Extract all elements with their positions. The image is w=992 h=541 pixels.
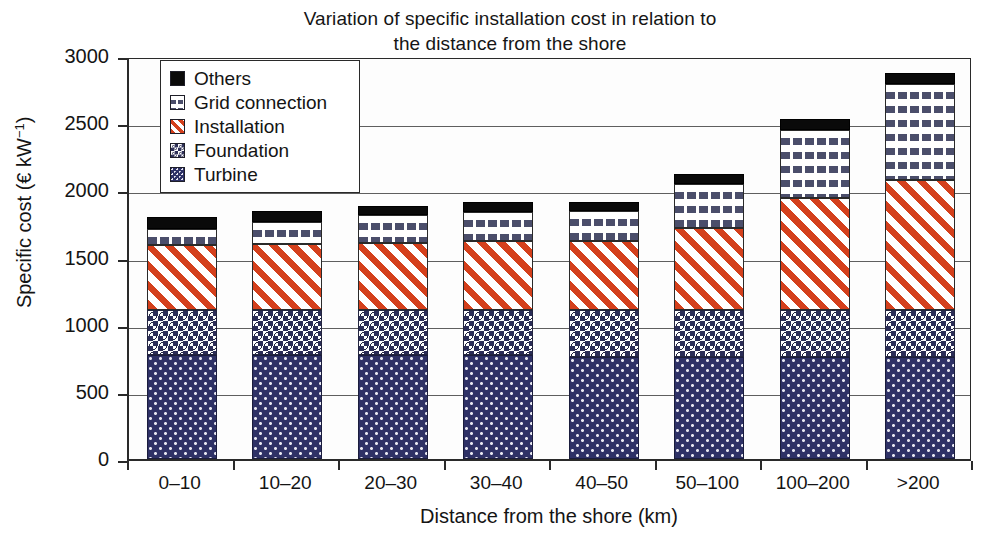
x-tick-label-4: 30–40 (444, 472, 550, 494)
foundation-swatch (170, 143, 185, 158)
y-tick-mark (118, 58, 127, 60)
y-tick-mark (118, 394, 127, 396)
bar-segment-turbine[interactable] (674, 357, 744, 459)
y-tick-mark (118, 125, 127, 127)
bar-3[interactable] (358, 56, 428, 459)
bar-8[interactable] (885, 56, 955, 459)
bar-segment-grid[interactable] (252, 222, 322, 244)
bar-segment-turbine[interactable] (780, 357, 850, 459)
bar-segment-grid[interactable] (885, 84, 955, 180)
legend-item-installation[interactable]: Installation (170, 114, 350, 138)
bar-segment-foundation[interactable] (463, 310, 533, 355)
bar-segment-turbine[interactable] (252, 355, 322, 459)
legend-label-grid: Grid connection (194, 93, 327, 112)
y-tick-mark (118, 260, 127, 262)
bar-segment-others[interactable] (674, 174, 744, 184)
x-tick-mark (127, 461, 129, 470)
bar-segment-foundation[interactable] (885, 310, 955, 357)
chart-title-line-2: the distance from the shore (130, 31, 890, 56)
bar-segment-grid[interactable] (780, 130, 850, 199)
legend-item-grid[interactable]: Grid connection (170, 90, 350, 114)
bar-segment-others[interactable] (780, 119, 850, 130)
x-tick-mark (971, 461, 973, 470)
bar-segment-foundation[interactable] (358, 310, 428, 355)
legend-label-turbine: Turbine (194, 165, 258, 184)
y-tick-label: 2000 (0, 179, 109, 202)
y-tick-label: 1500 (0, 247, 109, 270)
bar-4[interactable] (463, 56, 533, 459)
legend-label-others: Others (194, 69, 251, 88)
x-tick-mark (760, 461, 762, 470)
chart-title: Variation of specific installation cost … (130, 6, 890, 56)
x-tick-label-8: >200 (866, 472, 972, 494)
chart-title-line-1: Variation of specific installation cost … (304, 8, 717, 29)
x-tick-mark (655, 461, 657, 470)
bar-segment-others[interactable] (358, 206, 428, 215)
y-tick-mark (118, 192, 127, 194)
bar-6[interactable] (674, 56, 744, 459)
bar-segment-grid[interactable] (674, 184, 744, 228)
others-swatch (170, 71, 185, 86)
legend-item-foundation[interactable]: Foundation (170, 138, 350, 162)
x-axis-label: Distance from the shore (km) (127, 505, 971, 528)
y-axis-label-text: Specific cost (€ kW (13, 138, 35, 308)
x-tick-mark (866, 461, 868, 470)
legend-item-turbine[interactable]: Turbine (170, 162, 350, 186)
x-tick-label-3: 20–30 (338, 472, 444, 494)
bar-segment-foundation[interactable] (674, 310, 744, 357)
y-tick-mark (118, 327, 127, 329)
x-tick-label-1: 0–10 (127, 472, 233, 494)
bar-segment-turbine[interactable] (569, 357, 639, 459)
bar-segment-turbine[interactable] (147, 355, 217, 459)
bar-segment-others[interactable] (885, 73, 955, 84)
y-tick-label: 0 (0, 448, 109, 471)
bar-segment-grid[interactable] (358, 215, 428, 243)
y-tick-mark (118, 461, 127, 463)
bar-segment-installation[interactable] (252, 244, 322, 310)
bar-segment-foundation[interactable] (569, 310, 639, 357)
turbine-swatch (170, 167, 185, 182)
x-tick-mark (444, 461, 446, 470)
chart-figure: Variation of specific installation cost … (0, 0, 992, 541)
bar-segment-turbine[interactable] (358, 355, 428, 459)
bar-segment-foundation[interactable] (147, 310, 217, 355)
x-tick-label-6: 50–100 (655, 472, 761, 494)
y-axis-label: Specific cost (€ kW−1) (12, 12, 37, 412)
bar-segment-installation[interactable] (358, 243, 428, 310)
bar-segment-installation[interactable] (674, 228, 744, 310)
grid-swatch (170, 95, 185, 110)
bar-segment-turbine[interactable] (885, 357, 955, 459)
x-tick-mark (233, 461, 235, 470)
bar-segment-others[interactable] (569, 202, 639, 211)
x-tick-label-2: 10–20 (233, 472, 339, 494)
bar-segment-others[interactable] (252, 211, 322, 222)
legend-label-foundation: Foundation (194, 141, 289, 160)
x-tick-label-5: 40–50 (549, 472, 655, 494)
installation-swatch (170, 119, 185, 134)
bar-segment-others[interactable] (147, 217, 217, 229)
y-tick-label: 1000 (0, 314, 109, 337)
bar-segment-grid[interactable] (147, 229, 217, 245)
y-tick-label: 3000 (0, 45, 109, 68)
bar-segment-installation[interactable] (147, 245, 217, 309)
bar-segment-foundation[interactable] (252, 310, 322, 355)
bar-segment-installation[interactable] (780, 198, 850, 309)
bar-segment-turbine[interactable] (463, 355, 533, 459)
bar-5[interactable] (569, 56, 639, 459)
legend: OthersGrid connectionInstallationFoundat… (160, 60, 360, 193)
y-tick-label: 2500 (0, 112, 109, 135)
bar-segment-grid[interactable] (569, 211, 639, 241)
bar-segment-installation[interactable] (885, 180, 955, 310)
bar-segment-grid[interactable] (463, 212, 533, 242)
bar-segment-others[interactable] (463, 202, 533, 211)
bar-7[interactable] (780, 56, 850, 459)
legend-label-installation: Installation (194, 117, 285, 136)
legend-item-others[interactable]: Others (170, 66, 350, 90)
bar-segment-installation[interactable] (569, 241, 639, 310)
x-tick-mark (338, 461, 340, 470)
y-tick-label: 500 (0, 381, 109, 404)
x-tick-label-7: 100–200 (760, 472, 866, 494)
bar-segment-installation[interactable] (463, 241, 533, 310)
bar-segment-foundation[interactable] (780, 310, 850, 357)
x-tick-mark (549, 461, 551, 470)
